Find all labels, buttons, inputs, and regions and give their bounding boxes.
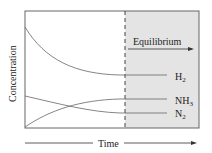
- equilibrium-region: [125, 11, 199, 128]
- chart: H2 NH3 N2 Equilibrium Concentration Time: [0, 0, 212, 153]
- x-axis-arrow-icon: [191, 141, 197, 145]
- x-axis-label: Time: [98, 138, 119, 149]
- equilibrium-label: Equilibrium: [133, 36, 182, 47]
- y-axis-label: Concentration: [7, 45, 18, 102]
